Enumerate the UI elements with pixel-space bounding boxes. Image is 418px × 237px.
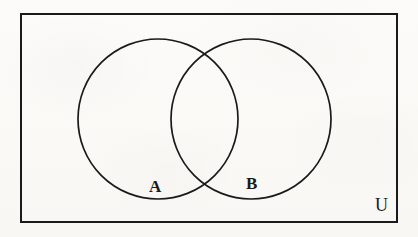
set-a-label: A (149, 178, 161, 195)
venn-diagram-canvas (0, 0, 418, 237)
set-b-label: B (246, 175, 257, 192)
venn-diagram-figure: A B U (0, 0, 418, 237)
set-a-circle (78, 39, 238, 199)
universal-set-label: U (375, 196, 388, 214)
